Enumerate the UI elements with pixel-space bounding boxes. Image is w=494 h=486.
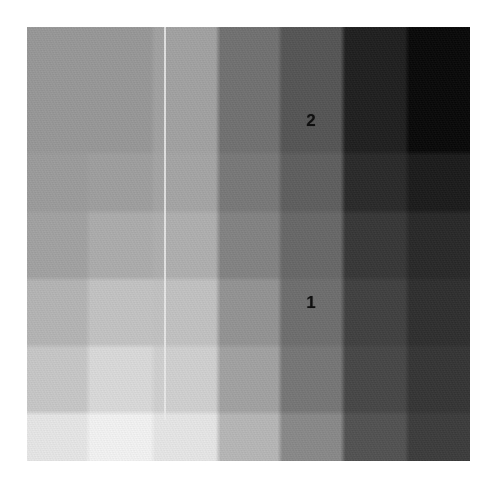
cell-label-2: 2 xyxy=(306,112,315,129)
cell-label-1: 1 xyxy=(306,294,315,311)
figure-root: 2 1 xyxy=(0,0,494,486)
grayscale-grid-pattern xyxy=(27,27,470,461)
